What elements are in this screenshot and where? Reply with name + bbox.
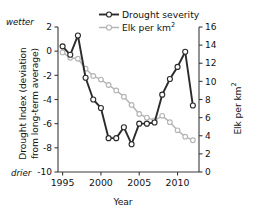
axis-lines: [58, 27, 199, 172]
series-elk-per-km2: [60, 50, 195, 143]
svg-text:8: 8: [205, 95, 211, 105]
svg-text:-2: -2: [43, 71, 52, 81]
x-axis-ticks: 1995200020052010: [51, 172, 190, 188]
legend-label-drought-severity: Drought severity: [122, 9, 199, 20]
svg-text:1995: 1995: [51, 177, 75, 188]
x-axis-title: Year: [58, 196, 188, 207]
svg-text:-6: -6: [43, 119, 52, 129]
drier-annotation: drier: [11, 168, 31, 178]
left-axis-title-line2: from long-term average): [28, 48, 39, 159]
legend-item-drought-severity: Drought severity: [122, 9, 199, 20]
svg-text:6: 6: [205, 113, 211, 123]
svg-text:2: 2: [205, 149, 211, 159]
chart-figure: 20-2-4-6-8-10 1614121086420 199520002005…: [0, 0, 264, 217]
svg-text:2010: 2010: [166, 177, 190, 188]
left-axis-title: Drought Index (deviation from long-term …: [17, 29, 40, 179]
svg-text:0: 0: [205, 167, 211, 177]
svg-text:16: 16: [205, 22, 217, 32]
svg-text:-4: -4: [43, 95, 52, 105]
svg-text:-8: -8: [43, 143, 52, 153]
svg-text:2: 2: [46, 22, 52, 32]
wetter-annotation: wetter: [6, 17, 34, 27]
svg-text:2000: 2000: [89, 177, 113, 188]
svg-text:14: 14: [205, 40, 217, 50]
legend-markers: [99, 12, 119, 30]
svg-text:12: 12: [205, 58, 216, 68]
svg-text:0: 0: [46, 46, 52, 56]
svg-text:-10: -10: [37, 167, 52, 177]
right-axis-title-sup: 2: [230, 82, 238, 86]
legend-item-elk-per-km2: Elk per km2: [122, 22, 175, 33]
right-axis-title-text: Elk per km: [232, 87, 243, 135]
svg-text:2005: 2005: [127, 177, 151, 188]
legend-label-elk-sup: 2: [171, 21, 175, 29]
right-axis-ticks: 1614121086420: [199, 22, 217, 177]
svg-text:4: 4: [205, 131, 211, 141]
left-axis-ticks: 20-2-4-6-8-10: [37, 22, 58, 177]
right-axis-title: Elk per km2: [232, 54, 243, 164]
left-axis-title-line1: Drought Index (deviation: [17, 47, 28, 159]
legend-label-elk-per-km2: Elk per km: [122, 22, 171, 33]
svg-text:10: 10: [205, 77, 217, 87]
